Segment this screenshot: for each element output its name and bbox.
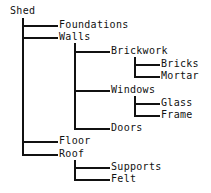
connector-roof-trunk [74, 160, 76, 181]
node-walls: Walls [59, 31, 91, 43]
node-shed: Shed [10, 5, 35, 17]
node-roof: Roof [59, 148, 84, 160]
node-felt: Felt [111, 173, 136, 185]
connector-bricks [134, 64, 160, 66]
node-floor: Floor [59, 135, 91, 147]
connector-supports [74, 167, 110, 169]
node-glass: Glass [161, 97, 193, 109]
node-supports: Supports [111, 161, 162, 173]
connector-roof [22, 154, 58, 156]
connector-windows-trunk [134, 96, 136, 117]
connector-brickwork [74, 51, 110, 53]
node-doors: Doors [111, 122, 143, 134]
connector-walls [22, 37, 58, 39]
connector-doors [74, 128, 110, 130]
connector-frame [134, 115, 160, 117]
node-bricks: Bricks [161, 58, 199, 70]
connector-foundations [22, 25, 58, 27]
connector-walls-trunk [74, 43, 76, 130]
connector-floor [22, 141, 58, 143]
connector-glass [134, 103, 160, 105]
node-brickwork: Brickwork [111, 45, 168, 57]
connector-felt [74, 179, 110, 181]
connector-brickwork-trunk [134, 57, 136, 78]
tree-diagram: Shed Foundations Walls Brickwork Bricks … [0, 0, 211, 193]
connector-mortar [134, 76, 160, 78]
node-windows: Windows [111, 84, 155, 96]
node-foundations: Foundations [59, 19, 129, 31]
node-frame: Frame [161, 109, 193, 121]
connector-windows [74, 90, 110, 92]
node-mortar: Mortar [161, 70, 199, 82]
